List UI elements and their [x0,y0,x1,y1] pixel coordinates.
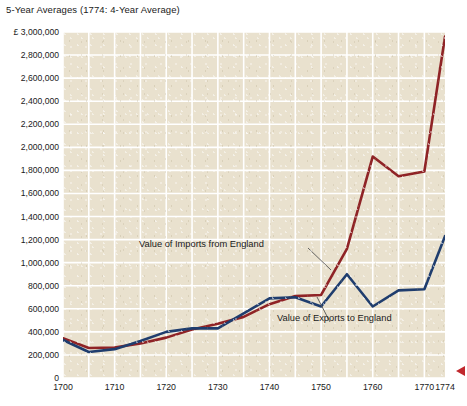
x-tick-label: 1730 [208,382,228,392]
y-tick-label: 1,200,000 [21,235,59,245]
y-axis: £ 3,000,0002,800,0002,600,0002,400,0002,… [0,0,59,406]
y-tick-label: 2,200,000 [21,119,59,129]
series-line-imports [63,37,445,348]
series-lines [63,37,445,352]
y-tick-label: 1,600,000 [21,188,59,198]
right-edge-arrow-icon [456,366,465,376]
y-tick-label: £ 3,000,000 [14,27,59,37]
y-tick-label: 200,000 [28,350,59,360]
annotation-imports-label: Value of Imports from England [139,239,264,249]
x-tick-label: 1750 [311,382,331,392]
y-tick-label: 2,400,000 [21,96,59,106]
y-tick-label: 1,400,000 [21,212,59,222]
x-tick-label: 1720 [156,382,176,392]
x-tick-label: 1700 [53,382,73,392]
x-tick-label: 1760 [363,382,383,392]
x-tick-label: 1770 [415,382,435,392]
gridlines [63,32,445,378]
annotation-exports-label: Value of Exports to England [277,313,392,323]
x-tick-label: 1740 [260,382,280,392]
series-line-exports [63,236,445,352]
plot-svg [63,32,445,378]
leader-line-imports [308,248,331,270]
plot-area [63,32,445,378]
chart-container: 5-Year Averages (1774: 4-Year Average) £… [0,0,467,406]
y-tick-label: 2,800,000 [21,50,59,60]
x-axis: 170017101720173017401750176017701774 [0,382,467,402]
y-tick-label: 2,000,000 [21,142,59,152]
y-tick-label: 1,000,000 [21,258,59,268]
y-tick-label: 400,000 [28,327,59,337]
y-tick-label: 800,000 [28,281,59,291]
y-tick-label: 600,000 [28,304,59,314]
y-tick-label: 2,600,000 [21,73,59,83]
y-tick-label: 1,800,000 [21,165,59,175]
x-tick-label: 1774 [435,382,455,392]
x-tick-label: 1710 [105,382,125,392]
